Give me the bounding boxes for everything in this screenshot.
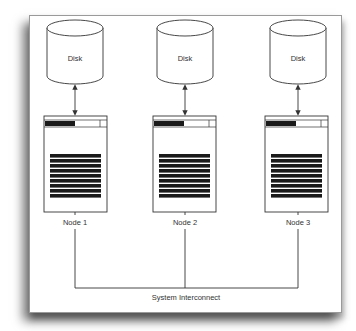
node-2-label: Node 2 (173, 218, 197, 227)
node-1: Node 1 (44, 116, 107, 227)
disk-2-label: Disk (178, 54, 193, 63)
cluster-diagram: Disk Disk Disk Node 1 Node 2 Node 3 Syst… (0, 0, 356, 331)
interconnect-label: System Interconnect (152, 293, 221, 302)
disk-cylinder-icon (47, 20, 103, 84)
server-window-icon (44, 116, 107, 212)
node-2: Node 2 (153, 116, 216, 227)
node-3-label: Node 3 (286, 218, 310, 227)
disk-3: Disk (270, 20, 326, 84)
disk-cylinder-icon (157, 20, 213, 84)
disk-3-label: Disk (291, 54, 306, 63)
disk-1-label: Disk (68, 54, 83, 63)
server-window-icon (265, 116, 328, 212)
server-window-icon (153, 116, 216, 212)
node-1-label: Node 1 (63, 218, 87, 227)
disk-cylinder-icon (270, 20, 326, 84)
disk-1: Disk (47, 20, 103, 84)
node-3: Node 3 (265, 116, 328, 227)
disk-2: Disk (157, 20, 213, 84)
